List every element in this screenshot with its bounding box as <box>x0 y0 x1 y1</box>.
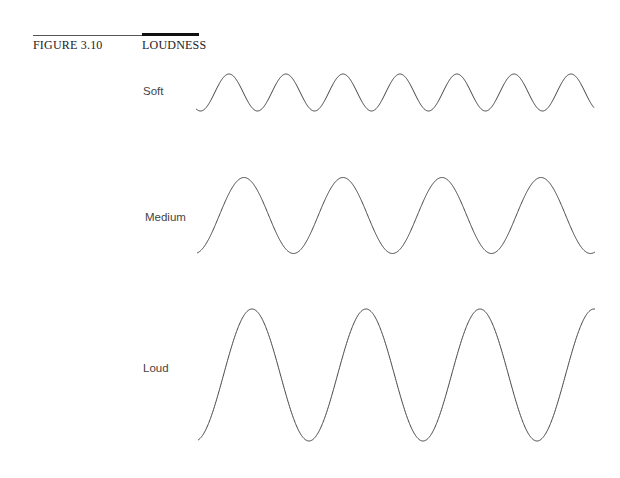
wave-soft <box>196 74 594 111</box>
waveforms <box>0 0 620 478</box>
wave-loud <box>198 309 595 441</box>
wave-medium <box>197 178 595 254</box>
